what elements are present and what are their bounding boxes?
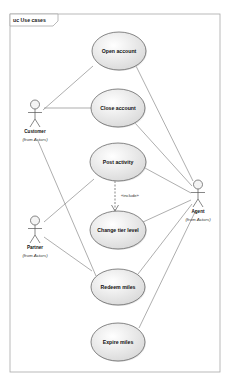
stick-figure-icon <box>28 100 42 127</box>
association-agent-expire[interactable] <box>139 210 196 328</box>
use-case-label: Expire miles <box>103 339 134 345</box>
use-case-label: Redeem miles <box>101 284 136 290</box>
use-case-open[interactable]: Open account <box>92 32 147 71</box>
association-partner-redeem[interactable] <box>44 237 92 271</box>
frame-title: uc Use cases <box>13 17 46 23</box>
use-case-label: Post activity <box>103 159 134 165</box>
association-agent-change[interactable] <box>143 200 191 222</box>
actor-name: Customer <box>24 129 46 134</box>
actor-package-note: (from Actors) <box>22 137 48 142</box>
diagram-svg: uc Use cases «include» Open accountClose… <box>0 0 233 386</box>
actor-package-note: (from Actors) <box>22 253 48 258</box>
use-case-redeem[interactable]: Redeem miles <box>91 269 146 306</box>
stick-figure-icon <box>191 180 205 207</box>
use-case-close[interactable]: Close account <box>91 89 146 128</box>
association-partner-post[interactable] <box>44 179 94 222</box>
use-case-post[interactable]: Post activity <box>90 143 147 182</box>
association-agent-post[interactable] <box>145 168 191 193</box>
actor-package-note: (from Actors) <box>185 217 211 222</box>
association-customer-open[interactable] <box>43 66 93 110</box>
association-agent-redeem[interactable] <box>138 204 192 274</box>
include-dependency-post-change[interactable]: «include» <box>112 181 140 211</box>
use-case-label: Change tier level <box>97 227 139 233</box>
use-case-change[interactable]: Change tier level <box>90 211 147 250</box>
stick-figure-icon <box>28 216 42 243</box>
actor-name: Agent <box>191 209 204 214</box>
use-case-label: Close account <box>100 105 136 111</box>
actor-name: Partner <box>27 245 43 250</box>
actor-customer[interactable]: Customer(from Actors) <box>22 100 48 142</box>
use-case-expire[interactable]: Expire miles <box>91 323 146 362</box>
use-case-diagram: uc Use cases «include» Open accountClose… <box>0 0 233 386</box>
dependencies: «include» <box>112 181 140 211</box>
use-case-label: Open account <box>102 48 137 54</box>
include-stereotype-label: «include» <box>121 193 140 198</box>
